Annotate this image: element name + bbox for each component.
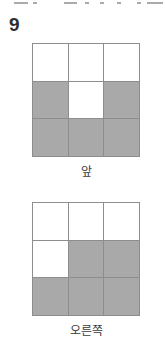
cube-grid-right-view [32,202,140,316]
grid-cell [69,241,104,278]
figure-caption-right: 오른쪽 [32,323,140,339]
figure-right-view: 오른쪽 [32,202,140,339]
cut-glyph [14,2,28,4]
grid-cell [104,119,139,156]
grid-cell [69,278,104,315]
figure-front-view: 앞 [32,43,140,180]
cut-glyph [33,2,37,4]
cut-glyph [147,2,163,4]
cut-glyph [85,2,89,4]
grid-cell [33,119,68,156]
cube-grid-front-view [32,43,140,157]
grid-cell [104,241,139,278]
grid-cell [33,82,68,119]
cut-glyph [137,2,141,4]
problem-number: 9 [9,13,20,37]
grid-cell [69,82,104,119]
grid-cell [69,203,104,240]
grid-cell [33,278,68,315]
figure-caption-front: 앞 [32,164,140,180]
cut-off-text-strip [0,0,165,7]
grid-cell [69,44,104,81]
grid-cell [33,241,68,278]
cut-glyph [100,2,104,4]
cut-glyph [117,2,121,4]
grid-cell [69,119,104,156]
grid-cell [33,203,68,240]
grid-cell [104,82,139,119]
grid-cell [104,278,139,315]
grid-cell [104,203,139,240]
grid-cell [104,44,139,81]
grid-cell [33,44,68,81]
cut-glyph [64,2,77,4]
